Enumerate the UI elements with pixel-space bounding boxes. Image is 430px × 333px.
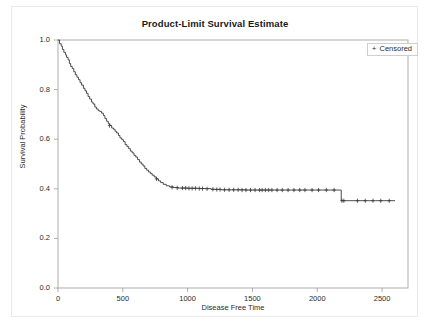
- y-tick-label: 1.0: [28, 35, 50, 44]
- censored-legend-label: Censored: [379, 45, 412, 53]
- censored-marker: [303, 188, 306, 192]
- censored-marker: [310, 188, 313, 192]
- censored-marker: [223, 188, 226, 192]
- censored-marker: [198, 186, 201, 190]
- x-tick-label: 1500: [235, 294, 269, 303]
- y-tick-label: 0.8: [28, 85, 50, 94]
- censored-marker: [371, 199, 374, 203]
- censored-marker: [211, 187, 214, 191]
- y-tick-label: 0.2: [28, 233, 50, 242]
- censored-marker: [218, 187, 221, 191]
- censored-marker: [249, 188, 252, 192]
- censored-marker: [292, 188, 295, 192]
- censored-marker: [240, 188, 243, 192]
- censored-marker: [227, 188, 230, 192]
- axis-tick-marks: [54, 40, 382, 292]
- censored-marker: [342, 199, 345, 203]
- censored-marker: [317, 188, 320, 192]
- censored-marker: [267, 188, 270, 192]
- censored-marker: [170, 185, 173, 189]
- censored-marker: [298, 188, 301, 192]
- plot-frame: [58, 40, 408, 288]
- y-tick-label: 0.4: [28, 184, 50, 193]
- x-tick-label: 1000: [171, 294, 205, 303]
- x-axis-label: Disease Free Time: [58, 303, 408, 312]
- censored-marker: [184, 186, 187, 190]
- censored-marker: [325, 188, 328, 192]
- survival-curve-line: [58, 40, 395, 201]
- censored-marker: [194, 186, 197, 190]
- censored-marker: [201, 186, 204, 190]
- censored-marker: [260, 188, 263, 192]
- plus-icon: +: [372, 45, 377, 53]
- censored-marker: [215, 187, 218, 191]
- censored-marker: [356, 199, 359, 203]
- x-tick-label: 0: [41, 294, 75, 303]
- censored-marker: [253, 188, 256, 192]
- censored-marker: [270, 188, 273, 192]
- censored-marker: [236, 188, 239, 192]
- censored-marker: [388, 199, 391, 203]
- censored-legend: + Censored: [367, 43, 418, 56]
- censored-marker: [364, 199, 367, 203]
- censored-marker: [281, 188, 284, 192]
- censored-marker: [190, 186, 193, 190]
- plot-canvas: [0, 0, 430, 333]
- survival-step-path: [58, 40, 395, 201]
- censored-marker: [187, 186, 190, 190]
- y-tick-label: 0.6: [28, 134, 50, 143]
- censored-marker: [232, 188, 235, 192]
- censored-marker: [332, 188, 335, 192]
- censored-marker: [379, 199, 382, 203]
- survival-plot-figure: Product-Limit Survival Estimate 0.00.20.…: [0, 0, 430, 333]
- censored-marker-group: [108, 123, 391, 202]
- censored-marker: [181, 186, 184, 190]
- x-tick-label: 500: [106, 294, 140, 303]
- censored-marker: [264, 188, 267, 192]
- censored-marker: [176, 186, 179, 190]
- censored-marker: [155, 177, 158, 181]
- x-tick-label: 2500: [365, 294, 399, 303]
- censored-marker: [275, 188, 278, 192]
- censored-marker: [205, 187, 208, 191]
- x-tick-label: 2000: [300, 294, 334, 303]
- censored-marker: [244, 188, 247, 192]
- censored-marker: [286, 188, 289, 192]
- y-tick-label: 0.0: [28, 283, 50, 292]
- y-axis-label: Survival Probability: [18, 77, 27, 197]
